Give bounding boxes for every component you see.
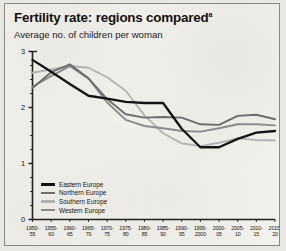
legend-swatch-icon xyxy=(41,183,55,186)
legend-swatch-icon xyxy=(41,209,55,212)
series-line-western-europe xyxy=(33,66,276,132)
chart-series-lines xyxy=(33,60,276,147)
chart-legend: Eastern EuropeNorthern EuropeSouthern Eu… xyxy=(41,180,107,214)
legend-item-northern-europe: Northern Europe xyxy=(41,189,107,198)
y-axis-label-3: 3 xyxy=(13,47,25,56)
chart-figure: Fertility rate: regions compareda Averag… xyxy=(4,3,280,246)
legend-item-label: Western Europe xyxy=(59,207,105,214)
x-axis-label-2015-20: 2015-20 xyxy=(262,225,280,237)
series-line-eastern-europe xyxy=(33,60,276,147)
legend-item-southern-europe: Southern Europe xyxy=(41,197,107,206)
legend-item-label: Southern Europe xyxy=(59,198,107,205)
legend-item-eastern-europe: Eastern Europe xyxy=(41,180,107,189)
legend-item-label: Northern Europe xyxy=(59,189,106,196)
series-line-southern-europe xyxy=(33,66,276,146)
series-line-northern-europe xyxy=(33,64,276,124)
y-axis-label-2: 2 xyxy=(13,103,25,112)
legend-swatch-icon xyxy=(41,200,55,203)
legend-item-western-europe: Western Europe xyxy=(41,206,107,215)
legend-item-label: Eastern Europe xyxy=(59,181,103,188)
y-axis-label-1: 1 xyxy=(13,159,25,168)
y-axis-label-0: 0 xyxy=(13,215,25,224)
legend-swatch-icon xyxy=(41,192,55,195)
